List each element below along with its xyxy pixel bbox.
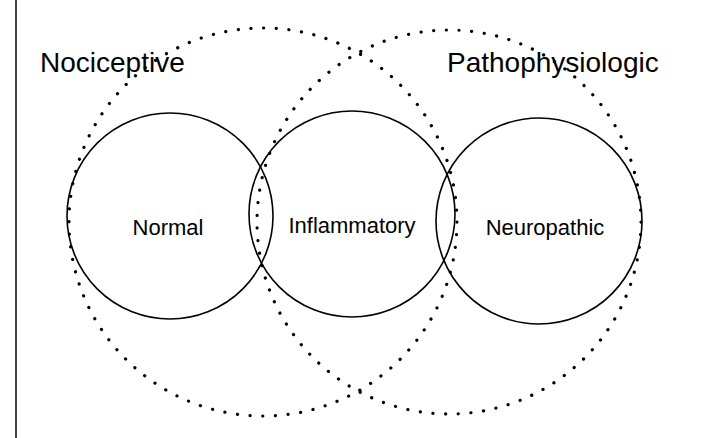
inflammatory-label: Inflammatory bbox=[288, 213, 415, 238]
pathophysiologic-label: Pathophysiologic bbox=[447, 47, 659, 78]
neuropathic-label: Neuropathic bbox=[486, 215, 605, 240]
normal-label: Normal bbox=[133, 215, 204, 240]
nociceptive-label: Nociceptive bbox=[40, 47, 185, 78]
venn-diagram: Nociceptive Pathophysiologic Normal Infl… bbox=[0, 0, 716, 438]
